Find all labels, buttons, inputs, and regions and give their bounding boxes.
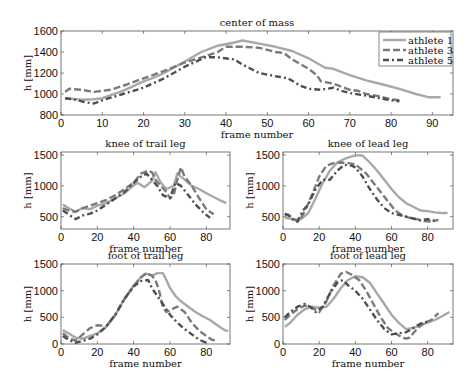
y-tick-label: 1500 [256,258,280,270]
x-tick-label: 80 [200,231,212,243]
x-tick-label: 80 [422,231,434,243]
plot-knee-of-trail-leg: 02040608050010001500knee of trail legfra… [22,138,230,254]
y-tick-label: 1000 [34,180,58,192]
x-tick-label: 60 [302,117,314,129]
x-tick-label: 40 [220,117,232,129]
y-axis-label: h [mm] [22,172,33,208]
figure: 01020304050607080908001000120014001600ce… [0,0,476,384]
y-tick-label: 1600 [34,25,58,37]
x-tick-label: 60 [164,231,176,243]
x-tick-label: 30 [179,117,191,129]
x-tick-label: 60 [164,346,176,358]
y-tick-label: 1000 [256,180,280,192]
y-tick-label: 1500 [34,149,58,161]
y-axis-label: h [mm] [244,172,255,208]
x-tick-label: 20 [91,231,103,243]
y-tick-label: 500 [40,211,58,223]
x-tick-label: 0 [58,346,64,358]
y-tick-label: 1400 [34,46,58,58]
plot-knee-of-lead-leg: 02040608050010001500knee of lead legfram… [244,138,453,254]
y-tick-label: 1200 [34,67,58,79]
x-tick-label: 40 [128,231,140,243]
y-tick-label: 500 [40,311,58,323]
x-tick-label: 20 [137,117,149,129]
x-tick-label: 40 [128,346,140,358]
y-tick-label: 500 [262,211,280,223]
x-tick-label: 90 [426,117,438,129]
y-tick-label: 1000 [34,88,58,100]
axes-frame [283,152,453,229]
x-tick-label: 20 [91,346,103,358]
y-tick-label: 1000 [34,285,58,297]
x-tick-label: 20 [313,346,325,358]
x-tick-label: 60 [385,231,397,243]
x-tick-label: 70 [344,117,356,129]
y-tick-label: 0 [52,338,58,350]
x-tick-label: 10 [96,117,108,129]
plot-foot-of-lead-leg: 020406080050010001500foot of lead legfra… [244,250,453,369]
x-tick-label: 50 [261,117,273,129]
x-tick-label: 20 [313,231,325,243]
x-tick-label: 0 [58,231,64,243]
x-tick-label: 80 [200,346,212,358]
plot-title: knee of lead leg [328,138,409,149]
x-tick-label: 40 [349,231,361,243]
x-axis-label: frame number [221,129,294,140]
plot-title: knee of trail leg [105,138,186,149]
x-tick-label: 0 [58,117,64,129]
legend-label: athlete 5 [408,55,453,66]
x-tick-label: 60 [385,346,397,358]
plot-title: foot of lead leg [330,250,407,261]
x-tick-label: 40 [349,346,361,358]
y-axis-label: h [mm] [22,55,33,91]
y-tick-label: 1500 [34,258,58,270]
y-tick-label: 1000 [256,285,280,297]
plot-foot-of-trail-leg: 020406080050010001500foot of trail legfr… [22,250,230,369]
y-tick-label: 0 [274,338,280,350]
x-tick-label: 80 [422,346,434,358]
plot-title: foot of trail leg [108,250,184,261]
axes-frame [61,264,230,344]
x-tick-label: 80 [385,117,397,129]
x-tick-label: 0 [280,231,286,243]
axes-frame [61,152,230,229]
x-tick-label: 0 [280,346,286,358]
axes-frame [283,264,453,344]
y-axis-label: h [mm] [244,286,255,322]
y-tick-label: 800 [40,109,58,121]
y-tick-label: 500 [262,311,280,323]
y-axis-label: h [mm] [22,286,33,322]
plot-title: center of mass [220,17,294,28]
legend: athlete 1athlete 3athlete 5 [379,32,453,66]
x-axis-label: frame number [109,358,182,369]
x-axis-label: frame number [332,358,405,369]
y-tick-label: 1500 [256,149,280,161]
